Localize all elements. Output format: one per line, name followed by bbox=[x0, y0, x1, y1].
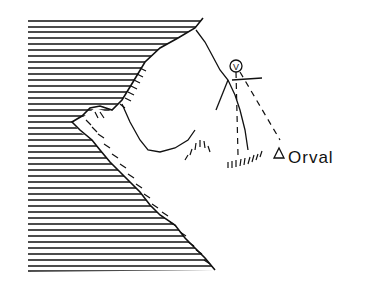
svg-text:V: V bbox=[233, 62, 239, 72]
sea-hatching bbox=[28, 21, 215, 271]
sketch-map: V bbox=[0, 0, 373, 291]
place-label-orval: Orval bbox=[288, 148, 334, 168]
triangle-marker bbox=[274, 148, 284, 158]
land-lines bbox=[122, 30, 262, 152]
sight-lines bbox=[236, 72, 280, 155]
ridge-hachures bbox=[185, 140, 262, 168]
viewpoint: V bbox=[230, 60, 242, 72]
